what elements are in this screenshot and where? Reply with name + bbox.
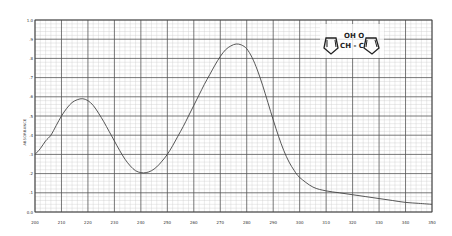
y-tick-label: .8: [29, 56, 33, 61]
x-tick-label: 260: [190, 220, 198, 225]
x-tick-label: 290: [269, 220, 277, 225]
y-axis-tick-labels: 0.0.1.2.3.4.5.6.7.8.91.0: [27, 18, 34, 215]
spectrum-curve: [35, 44, 432, 204]
chemical-structure-inset: OH O CH - C: [320, 24, 384, 58]
y-tick-label: 0.0: [27, 210, 34, 215]
structure-oh-o-text: OH O: [344, 32, 364, 40]
x-tick-label: 250: [164, 220, 172, 225]
x-axis-tick-labels: 2002102202302402502602702802903003103203…: [31, 220, 436, 225]
y-tick-label: .3: [29, 152, 33, 157]
x-tick-label: 300: [296, 220, 304, 225]
x-tick-label: 310: [322, 220, 330, 225]
y-axis-label: ABSORBANCE: [23, 118, 27, 145]
x-tick-label: 240: [137, 220, 145, 225]
x-tick-label: 320: [349, 220, 357, 225]
x-tick-label: 280: [243, 220, 251, 225]
structure-ch-c-text: CH - C: [340, 42, 364, 50]
y-tick-label: .9: [29, 37, 33, 42]
uv-absorbance-chart: 2002102202302402502602702802903003103203…: [0, 0, 452, 236]
y-tick-label: 1.0: [27, 18, 34, 23]
y-tick-label: .7: [29, 75, 33, 80]
x-tick-label: 350: [428, 220, 436, 225]
x-tick-label: 210: [58, 220, 66, 225]
y-tick-label: .5: [29, 114, 33, 119]
x-tick-label: 200: [31, 220, 39, 225]
y-tick-label: .2: [29, 171, 33, 176]
x-tick-label: 270: [216, 220, 224, 225]
x-tick-label: 340: [402, 220, 410, 225]
y-tick-label: .4: [29, 133, 33, 138]
x-tick-label: 220: [84, 220, 92, 225]
y-tick-label: .1: [29, 190, 33, 195]
x-tick-label: 330: [375, 220, 383, 225]
x-tick-label: 230: [111, 220, 119, 225]
y-tick-label: .6: [29, 94, 33, 99]
